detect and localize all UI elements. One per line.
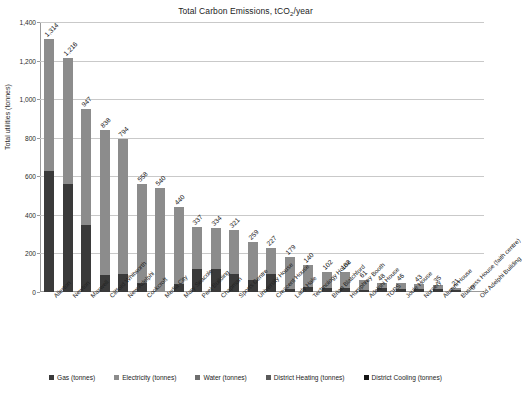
bar-value-label: 1,216	[62, 40, 79, 57]
bar-value-label: 259	[247, 228, 260, 241]
bar-segment	[63, 58, 73, 185]
legend-item[interactable]: District Heating (tonnes)	[266, 374, 345, 381]
legend-label: District Heating (tonnes)	[274, 374, 345, 381]
legend-label: Water (tonnes)	[203, 374, 246, 381]
bar-value-label: 838	[99, 117, 112, 130]
legend-swatch-icon	[364, 375, 369, 380]
bar-value-label: 440	[173, 193, 186, 206]
y-axis-tick-label: 0	[32, 289, 36, 296]
plot-area: 02004006008001,0001,2001,400 1,3141,2169…	[40, 22, 484, 292]
legend-swatch-icon	[195, 375, 200, 380]
legend-swatch-icon	[114, 375, 119, 380]
bar-value-label: 558	[136, 171, 149, 184]
bar-value-label: 1,314	[43, 21, 60, 38]
bar-segment	[44, 171, 54, 293]
legend-item[interactable]: Gas (tonnes)	[49, 374, 95, 381]
bar-value-label: 227	[265, 234, 278, 247]
bar-group[interactable]: 1,216	[63, 58, 73, 293]
bar-segment	[229, 230, 239, 274]
bar-group[interactable]: 1,314	[44, 39, 54, 292]
bar-value-label: 102	[321, 259, 334, 272]
bar-series-container: 1,3141,216947838794558540440337334321259…	[40, 22, 484, 292]
y-axis-tick-mark	[37, 292, 40, 293]
bar-segment	[63, 184, 73, 292]
y-axis-title: Total utilities (tonnes)	[4, 84, 11, 150]
bar-value-label: 334	[210, 214, 223, 227]
legend-label: Electricity (tonnes)	[122, 374, 176, 381]
bar-segment	[44, 39, 54, 171]
x-axis-labels: AllertonNewtonMaxwellClifford WhitworthN…	[40, 294, 484, 354]
y-axis-tick-label: 200	[25, 250, 36, 257]
bar-value-label: 794	[117, 125, 130, 138]
bar-value-label: 321	[228, 216, 241, 229]
bar-segment	[81, 109, 91, 225]
legend-item[interactable]: District Cooling (tonnes)	[364, 374, 442, 381]
y-axis-tick-label: 1,200	[19, 57, 36, 64]
bar-segment	[118, 139, 128, 274]
chart-title-suffix: /year	[293, 6, 312, 16]
chart-title-subscript: 2	[290, 11, 293, 17]
bar-group[interactable]: 947	[81, 109, 91, 292]
chart-title-prefix: Total Carbon Emissions, tCO	[178, 6, 290, 16]
legend-label: Gas (tonnes)	[57, 374, 95, 381]
legend-swatch-icon	[49, 375, 54, 380]
legend-item[interactable]: Electricity (tonnes)	[114, 374, 176, 381]
legend-label: District Cooling (tonnes)	[372, 374, 442, 381]
bar-group[interactable]: 794	[118, 139, 128, 292]
legend-swatch-icon	[266, 375, 271, 380]
bar-segment	[211, 228, 221, 270]
bar-value-label: 337	[191, 213, 204, 226]
y-axis-tick-label: 400	[25, 211, 36, 218]
legend-item[interactable]: Water (tonnes)	[195, 374, 246, 381]
bar-value-label: 179	[284, 244, 297, 257]
y-axis-tick-label: 1,400	[19, 19, 36, 26]
bar-value-label: 947	[80, 96, 93, 109]
y-axis-tick-label: 600	[25, 173, 36, 180]
y-axis-tick-label: 1,000	[19, 96, 36, 103]
chart-title: Total Carbon Emissions, tCO2/year	[0, 6, 491, 16]
chart-legend: Gas (tonnes)Electricity (tonnes)Water (t…	[0, 374, 491, 381]
bar-group[interactable]: 838	[100, 130, 110, 292]
bar-segment	[100, 130, 110, 274]
bar-value-label: 540	[154, 174, 167, 187]
bar-segment	[192, 227, 202, 269]
y-axis-tick-label: 800	[25, 134, 36, 141]
